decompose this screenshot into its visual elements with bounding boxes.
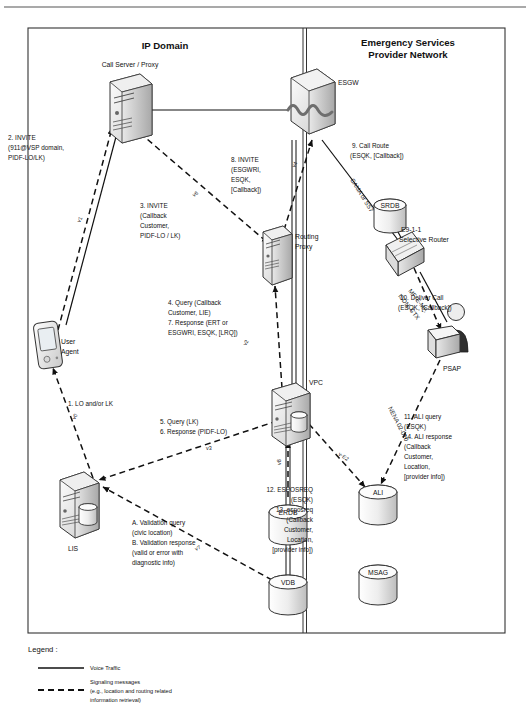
label-call-server: Call Server / Proxy <box>102 61 159 69</box>
svg-text:Customer,: Customer, <box>284 526 313 533</box>
svg-text:14. ALI response: 14. ALI response <box>404 433 452 441</box>
svg-text:(911@VSP domain,: (911@VSP domain, <box>8 144 64 152</box>
link-ua-lis <box>53 368 93 478</box>
svg-text:(Callback: (Callback <box>140 212 167 220</box>
svg-text:(Callback: (Callback <box>404 443 431 451</box>
edge-label-v8: v8 <box>276 459 282 465</box>
label-msag: MSAG <box>368 569 388 576</box>
svg-text:Customer, LIE): Customer, LIE) <box>168 309 211 317</box>
svg-text:[provider info]): [provider info]) <box>404 473 445 481</box>
label-selective-router-line2: Selective Router <box>399 236 450 243</box>
svg-text:12. ESPOSREQ: 12. ESPOSREQ <box>266 486 313 494</box>
label-srdb: SRDB <box>381 202 400 209</box>
label-psap: PSAP <box>443 365 462 372</box>
svg-text:9. Call Route: 9. Call Route <box>352 142 389 149</box>
link-vpc-routingproxy <box>275 286 282 388</box>
message-a-b-validation: A. Validation query (civic location) B. … <box>132 519 196 567</box>
svg-text:2. INVITE: 2. INVITE <box>8 134 36 141</box>
label-selective-router-line1: E9-1-1 <box>401 226 422 233</box>
link-ua-callserver-invite <box>58 128 112 330</box>
message-3-invite: 3. INVITE (Callback Customer, PIDF-LO / … <box>140 202 180 240</box>
link-vdb-lis <box>103 487 272 580</box>
svg-text:(ESQK): (ESQK) <box>291 496 313 504</box>
label-vdb: VDB <box>281 579 295 586</box>
svg-text:(civic location): (civic location) <box>132 529 173 537</box>
svg-text:[Callback]): [Callback]) <box>231 186 261 194</box>
edge-label-v3: v3 <box>206 445 212 451</box>
legend-title: Legend : <box>28 645 58 654</box>
domain-title-esp-line1: Emergency Services <box>361 37 455 48</box>
label-routing-proxy-line1: Routing <box>295 233 319 241</box>
legend-signaling-label-line2: (e.g., location and routing related <box>90 688 172 694</box>
node-esgw[interactable] <box>288 69 335 134</box>
link-ua-callserver <box>66 133 117 325</box>
svg-text:ESGWRI, ESQK, [LRQ]): ESGWRI, ESQK, [LRQ]) <box>168 329 238 337</box>
legend-signaling-label-line3: information retrieval) <box>90 697 141 703</box>
node-vpc-store <box>291 412 307 432</box>
label-ali: ALI <box>373 489 383 496</box>
edge-label-v0: v0 <box>71 413 79 421</box>
svg-text:PIDF-LO / LK): PIDF-LO / LK) <box>140 232 180 240</box>
svg-text:5. Query (LK): 5. Query (LK) <box>160 418 198 426</box>
edge-label-v4: v4 <box>291 161 299 169</box>
edge-label-v1: v1 <box>76 216 84 224</box>
svg-text:diagnostic info): diagnostic info) <box>132 559 175 567</box>
edge-label-v-e2: v-E2 <box>337 451 350 462</box>
label-esgw: ESGW <box>338 79 359 86</box>
message-11-14-ali: 11. ALI query (ESQK) 14. ALI response (C… <box>404 413 452 481</box>
svg-text:Customer,: Customer, <box>404 453 433 460</box>
svg-text:4. Query (Callback: 4. Query (Callback <box>168 299 222 307</box>
label-user-agent-line2: Agent <box>61 348 79 356</box>
label-vpc: VPC <box>309 379 323 386</box>
svg-text:13. esposreq: 13. esposreq <box>276 506 313 514</box>
message-9-call-route: 9. Call Route (ESQK, [Callback]) <box>350 142 404 160</box>
svg-text:(ESQK): (ESQK) <box>404 423 426 431</box>
message-4-7-query-response: 4. Query (Callback Customer, LIE) 7. Res… <box>168 299 238 337</box>
domain-title-ip: IP Domain <box>142 40 189 51</box>
path-label-cama-ss7: CAMA or SS7 <box>349 177 375 214</box>
network-diagram: IP Domain Emergency Services Provider Ne… <box>0 0 530 706</box>
legend-voice-label: Voice Traffic <box>90 665 121 671</box>
svg-text:6. Response (PIDF-LO): 6. Response (PIDF-LO) <box>160 428 227 436</box>
svg-text:B. Validation response: B. Validation response <box>132 539 196 547</box>
svg-text:(ESQK, [Callback]): (ESQK, [Callback]) <box>350 152 404 160</box>
node-routing-proxy[interactable] <box>263 226 292 285</box>
svg-text:11. ALI query: 11. ALI query <box>404 413 442 421</box>
node-lis[interactable] <box>60 472 99 538</box>
pipe-vpc-esgw <box>292 140 296 392</box>
svg-text:8. INVITE: 8. INVITE <box>231 156 259 163</box>
legend-signaling-label-line1: Signaling messages <box>90 679 140 685</box>
message-1-lo-lk: 1. LO and/or LK <box>68 400 114 407</box>
message-5-6-query-response: 5. Query (LK) 6. Response (PIDF-LO) <box>160 418 227 436</box>
message-2-invite: 2. INVITE (911@VSP domain, PIDF-LO/LK) <box>8 134 64 162</box>
svg-text:7. Response (ERT or: 7. Response (ERT or <box>168 319 229 327</box>
message-8-invite: 8. INVITE (ESGWRI, ESQK, [Callback]) <box>231 156 261 194</box>
svg-text:Location,: Location, <box>404 463 430 470</box>
svg-text:ESQK,: ESQK, <box>231 176 251 184</box>
link-routingproxy-esgw <box>284 140 312 230</box>
label-routing-proxy-line2: Proxy <box>295 243 313 251</box>
label-lis: LIS <box>68 545 79 552</box>
svg-text:3. INVITE: 3. INVITE <box>140 202 168 209</box>
svg-text:(Callback: (Callback <box>286 516 313 524</box>
svg-text:(valid or error with: (valid or error with <box>132 549 184 557</box>
svg-text:(ESGWRI,: (ESGWRI, <box>231 166 261 174</box>
node-psap[interactable] <box>428 304 468 359</box>
edge-label-v6: v6 <box>191 190 199 198</box>
svg-text:[provider info]): [provider info]) <box>272 546 313 554</box>
label-user-agent-line1: User <box>61 338 76 345</box>
edge-label-v2: v2 <box>242 339 250 347</box>
diagram-canvas: IP Domain Emergency Services Provider Ne… <box>0 0 530 706</box>
node-call-server[interactable] <box>110 74 152 143</box>
svg-text:PIDF-LO/LK): PIDF-LO/LK) <box>8 154 45 162</box>
edge-label-v7: v7 <box>194 544 202 552</box>
domain-title-esp-line2: Provider Network <box>368 49 448 60</box>
svg-text:A. Validation query: A. Validation query <box>132 519 186 527</box>
svg-text:Location,: Location, <box>287 536 313 543</box>
svg-text:1. LO and/or LK: 1. LO and/or LK <box>68 400 114 407</box>
svg-text:Customer,: Customer, <box>140 222 169 229</box>
